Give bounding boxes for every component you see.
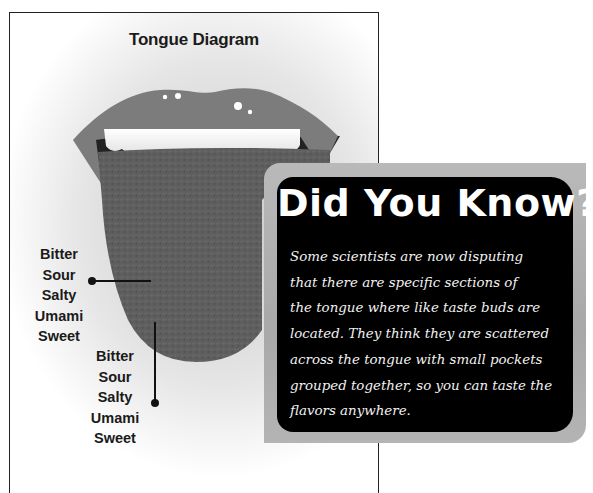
taste-labels-right: Bitter Sour Salty Umami Sweet <box>80 346 150 449</box>
callout-heading: Did You Know? <box>277 181 573 225</box>
taste-label: Sweet <box>80 428 150 449</box>
taste-label: Sour <box>24 265 94 286</box>
taste-label: Umami <box>80 408 150 429</box>
callout-line: Some scientists are now disputing <box>290 244 572 270</box>
taste-label: Bitter <box>24 244 94 265</box>
taste-labels-left: Bitter Sour Salty Umami Sweet <box>24 244 94 347</box>
callout-line: that there are specific sections of <box>290 270 572 296</box>
pointer-dot-bottom <box>151 399 159 407</box>
taste-label: Salty <box>80 387 150 408</box>
taste-label: Umami <box>24 306 94 327</box>
taste-label: Sweet <box>24 326 94 347</box>
callout-line: flavors anywhere. <box>290 398 572 424</box>
callout-line: the tongue where like taste buds are <box>290 295 572 321</box>
callout-line: across the tongue with small pockets <box>290 347 572 373</box>
callout-line: located. They think they are scattered <box>290 321 572 347</box>
taste-label: Salty <box>24 285 94 306</box>
callout-body: Some scientists are now disputing that t… <box>290 244 572 424</box>
taste-label: Sour <box>80 367 150 388</box>
callout-line: grouped together, so you can taste the <box>290 373 572 399</box>
taste-label: Bitter <box>80 346 150 367</box>
